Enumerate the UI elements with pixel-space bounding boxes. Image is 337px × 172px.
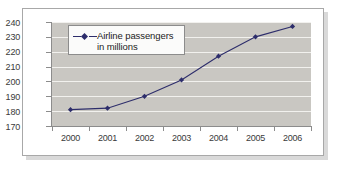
- data-point-marker: [105, 106, 110, 111]
- y-axis-tick-label: 190: [6, 92, 20, 102]
- y-axis-tick-label: 170: [6, 122, 20, 132]
- y-axis-tick-label: 200: [6, 77, 20, 87]
- y-axis-tick-label: 230: [6, 32, 20, 42]
- legend-entry: Airline passengers in millions: [73, 30, 173, 52]
- data-point-marker: [68, 107, 73, 112]
- legend-marker-icon: [73, 31, 97, 42]
- data-point-marker: [253, 34, 258, 39]
- legend-label-line2: in millions: [97, 41, 173, 52]
- y-axis-tick-label: 210: [6, 62, 20, 72]
- legend-label: Airline passengers in millions: [97, 30, 173, 52]
- data-point-marker: [290, 24, 295, 29]
- legend-label-line1: Airline passengers: [97, 30, 173, 41]
- y-axis-tick-label: 180: [6, 107, 20, 117]
- chart-card: 240230220210200190180170 200020012002200…: [22, 8, 324, 156]
- data-point-marker: [142, 94, 147, 99]
- plot-wrapper: 240230220210200190180170 200020012002200…: [23, 9, 323, 155]
- y-axis-tick-label: 240: [6, 18, 20, 28]
- y-axis-tick-label: 220: [6, 47, 20, 57]
- chart-legend: Airline passengers in millions: [68, 25, 185, 55]
- chart-screenshot: 240230220210200190180170 200020012002200…: [0, 0, 337, 172]
